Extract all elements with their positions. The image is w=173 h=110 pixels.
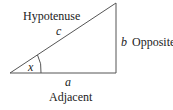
angle-x-label: x bbox=[28, 61, 33, 73]
side-a-label: a bbox=[65, 76, 71, 88]
hypotenuse-label: Hypotenuse bbox=[23, 10, 80, 22]
angle-arc bbox=[38, 55, 42, 73]
side-b-label: b bbox=[121, 36, 127, 48]
opposite-label: Opposite bbox=[132, 36, 173, 48]
side-c-label: c bbox=[56, 25, 61, 37]
adjacent-label: Adjacent bbox=[49, 91, 92, 103]
